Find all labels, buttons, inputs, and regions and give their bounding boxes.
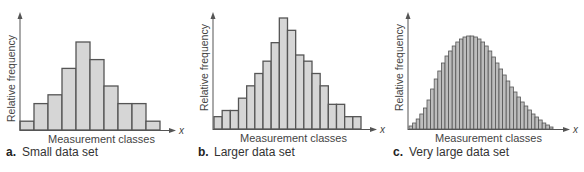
- histogram-bar: [271, 43, 279, 129]
- histogram-bar: [488, 51, 492, 129]
- caption: Very large data set: [409, 145, 510, 159]
- histogram-bar: [517, 97, 521, 129]
- histogram-bar: [353, 117, 361, 129]
- histogram-bar: [76, 42, 90, 130]
- histogram-bar: [230, 111, 238, 130]
- histogram-bar: [506, 81, 510, 129]
- histogram-bar: [62, 68, 76, 130]
- histogram-bar: [328, 104, 336, 129]
- histogram-bar: [499, 69, 503, 129]
- caption: Small data set: [22, 145, 99, 159]
- histogram-bar: [434, 79, 438, 129]
- histogram-bar: [222, 111, 230, 130]
- x-axis-arrow-icon: [563, 127, 570, 132]
- histogram-bar: [531, 114, 535, 129]
- histogram-bar: [255, 74, 263, 130]
- histogram-bar: [413, 123, 417, 129]
- y-axis-arrow-icon: [18, 12, 23, 19]
- histogram-bar: [427, 100, 431, 129]
- histogram-bar: [431, 89, 435, 129]
- histogram-bar: [279, 18, 287, 129]
- caption-letter: b.: [198, 145, 209, 159]
- histogram-bar: [34, 104, 48, 130]
- x-axis-label: Measurement classes: [48, 133, 155, 145]
- y-axis-arrow-icon: [211, 12, 216, 19]
- histogram-bar: [474, 37, 478, 129]
- x-variable-label: x: [379, 124, 386, 135]
- histogram-bar: [416, 119, 420, 129]
- histogram-bar: [481, 42, 485, 129]
- y-axis-label: Relative frequency: [393, 23, 405, 111]
- histogram-bar: [20, 121, 34, 130]
- histogram-bar: [456, 42, 460, 129]
- panel-a-bars: [20, 42, 160, 130]
- panel-b-bars: [214, 18, 361, 129]
- panel-b: x Relative frequency Measurement classes…: [198, 12, 386, 159]
- panel-c-bars: [409, 36, 553, 129]
- histogram-bar: [546, 125, 550, 129]
- panel-c: x Relative frequency Measurement classes…: [393, 12, 579, 159]
- histogram-bar: [214, 117, 222, 129]
- histogram-bar: [510, 87, 514, 129]
- histogram-bar: [90, 60, 104, 130]
- histogram-bar: [304, 61, 312, 129]
- histogram-bar: [449, 51, 453, 129]
- histogram-bar: [467, 36, 471, 129]
- histogram-bar: [492, 57, 496, 129]
- histogram-bar: [288, 30, 296, 129]
- y-axis-label: Relative frequency: [5, 34, 17, 122]
- histogram-bar: [445, 56, 449, 129]
- caption: Larger data set: [214, 145, 295, 159]
- histogram-bar: [524, 106, 528, 129]
- histogram-bar: [337, 104, 345, 129]
- histogram-bar: [441, 63, 445, 129]
- histogram-bar: [438, 71, 442, 129]
- histogram-bar: [528, 110, 532, 129]
- histogram-bar: [549, 127, 553, 129]
- panel-a: x Relative frequency Measurement classes…: [5, 12, 185, 159]
- histogram-bar: [118, 104, 132, 130]
- histogram-bar: [420, 114, 424, 129]
- histogram-bar: [495, 63, 499, 129]
- x-axis-label: Measurement classes: [240, 132, 347, 144]
- y-axis-label: Relative frequency: [198, 23, 210, 111]
- histogram-bar: [477, 39, 481, 129]
- histogram-bar: [263, 61, 271, 129]
- caption-letter: c.: [393, 145, 403, 159]
- histogram-bar: [463, 37, 467, 129]
- histogram-bar: [239, 98, 247, 129]
- histogram-figure: x Relative frequency Measurement classes…: [0, 0, 584, 172]
- x-axis-label: Measurement classes: [435, 132, 542, 144]
- x-variable-label: x: [178, 125, 185, 136]
- y-axis-arrow-icon: [406, 12, 411, 19]
- histogram-bar: [132, 104, 146, 130]
- histogram-bar: [312, 74, 320, 130]
- histogram-bar: [409, 126, 413, 129]
- x-axis-arrow-icon: [370, 127, 377, 132]
- histogram-bar: [320, 86, 328, 129]
- caption-letter: a.: [6, 145, 16, 159]
- histogram-bar: [521, 102, 525, 129]
- histogram-bar: [247, 86, 255, 129]
- histogram-bar: [104, 86, 118, 130]
- histogram-bar: [503, 75, 507, 129]
- histogram-bar: [423, 108, 427, 129]
- x-variable-label: x: [572, 124, 579, 135]
- histogram-bar: [513, 92, 517, 129]
- histogram-bar: [345, 117, 353, 129]
- histogram-bar: [542, 123, 546, 129]
- histogram-bar: [485, 46, 489, 129]
- histogram-bar: [470, 36, 474, 129]
- histogram-bar: [539, 120, 543, 129]
- histogram-bar: [48, 95, 62, 130]
- histogram-bar: [146, 121, 160, 130]
- histogram-bar: [296, 55, 304, 129]
- x-axis-arrow-icon: [169, 128, 176, 133]
- histogram-bar: [459, 39, 463, 129]
- histogram-bar: [452, 46, 456, 129]
- histogram-bar: [535, 117, 539, 129]
